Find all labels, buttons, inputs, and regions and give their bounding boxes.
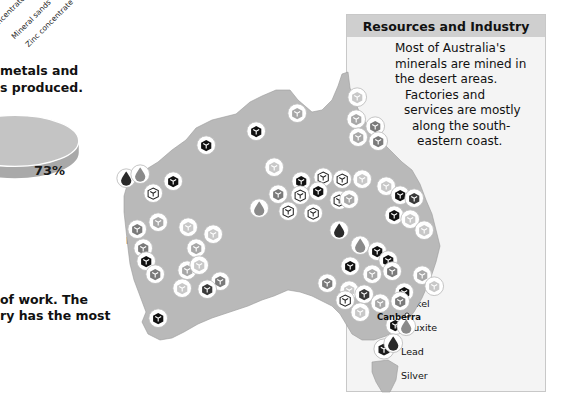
legend-item-coal: Coal <box>373 195 437 219</box>
map-marker-gold <box>179 218 198 237</box>
map-marker-bauxite <box>149 213 168 232</box>
map-marker-gas <box>250 199 269 218</box>
lead-cube-icon <box>373 338 395 364</box>
silver-cube-outline-icon <box>373 362 395 388</box>
map-marker-gold <box>173 279 192 298</box>
desc-line: Factories and <box>347 88 547 104</box>
desc-line: services are mostly <box>347 103 547 119</box>
pie-data-label: 73% <box>34 163 65 178</box>
desc-line: eastern coast. <box>347 134 547 150</box>
desc-line: Most of Australia's <box>347 41 547 57</box>
pie-legend-label: Manufacturing industry <box>126 236 231 246</box>
legend-label: Oil <box>401 178 414 189</box>
gas-drop-icon <box>373 218 395 244</box>
desc-line: the desert areas. <box>347 72 547 88</box>
iron-cube-icon <box>373 242 395 268</box>
desc-line: minerals are mined in <box>347 57 547 73</box>
map-marker-nickel <box>211 272 230 291</box>
map-marker-gold <box>265 158 284 177</box>
map-marker-silver <box>291 186 310 205</box>
map-marker-iron <box>198 280 217 299</box>
oil-drop-icon <box>373 170 395 196</box>
map-marker-bauxite <box>178 261 197 280</box>
legend-item-oil: Oil <box>373 171 437 195</box>
map-marker-silver <box>314 168 333 187</box>
resources-panel: Resources and Industry Most of Australia… <box>346 14 546 392</box>
map-marker-silver <box>279 202 298 221</box>
map-marker-gas <box>131 165 150 184</box>
body-text-line: of work. The <box>0 291 88 308</box>
gold-cube-icon <box>373 266 395 292</box>
legend-item-gold: Gold <box>373 267 437 291</box>
legend-item-silver: Silver <box>373 363 437 387</box>
map-marker-silver <box>304 204 323 223</box>
body-text-line: ry has the most <box>0 307 111 324</box>
legend-item-lead: Lead <box>373 339 437 363</box>
panel-title: Resources and Industry <box>347 15 545 37</box>
map-marker-coal <box>247 122 266 141</box>
legend-label: Nickel <box>401 298 430 309</box>
legend-label: Gold <box>401 274 423 285</box>
body-text-line: s produced. <box>0 79 83 96</box>
map-marker-coal <box>197 136 216 155</box>
legend-item-gas: Gas <box>373 219 437 243</box>
body-text-line: metals and <box>0 62 78 79</box>
map-marker-coal <box>292 172 311 191</box>
map-marker-bauxite <box>288 104 307 123</box>
coal-cube-icon <box>373 194 395 220</box>
map-marker-oil <box>117 169 136 188</box>
desc-line: along the south- <box>347 119 547 135</box>
legend-label: Iron <box>401 250 419 261</box>
map-marker-nickel <box>146 265 165 284</box>
legend-label: Lead <box>401 346 424 357</box>
map-marker-gold <box>190 256 209 275</box>
legend-label: Silver <box>401 370 428 381</box>
legend-item-iron: Iron <box>373 243 437 267</box>
panel-description: Most of Australia's minerals are mined i… <box>347 41 547 150</box>
legend-label: Gas <box>401 226 419 237</box>
map-marker-coal <box>149 309 168 328</box>
map-legend: Oil CoalGas Iron Gold Nickel Bauxite Lea… <box>373 171 437 387</box>
map-marker-nickel <box>269 185 288 204</box>
legend-label: Bauxite <box>401 322 437 333</box>
map-marker-coal <box>309 182 328 201</box>
city-label-canberra: Canberra <box>377 312 421 322</box>
map-marker-coal <box>164 172 183 191</box>
legend-label: Coal <box>401 202 422 213</box>
map-marker-silver <box>144 184 163 203</box>
map-marker-coal <box>137 252 156 271</box>
map-marker-nickel <box>318 274 337 293</box>
